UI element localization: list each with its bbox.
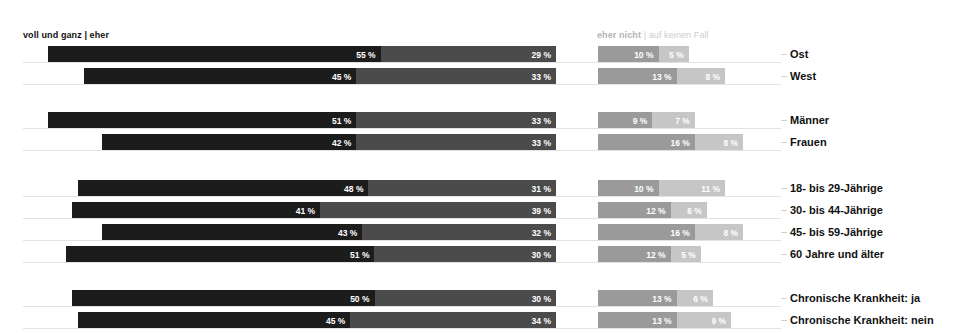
- segment-value: 10 %: [634, 184, 653, 193]
- category-label: Chronische Krankheit: ja: [790, 290, 920, 307]
- segment-eher: 30 %: [375, 290, 557, 307]
- segment-value: 9 %: [711, 316, 726, 325]
- segment-eher-nicht: 9 %: [598, 112, 652, 129]
- segment-auf-keinen-fall: 9 %: [677, 312, 731, 329]
- row-tick: [781, 298, 787, 299]
- segment-value: 12 %: [646, 250, 665, 259]
- segment-auf-keinen-fall: 6 %: [677, 290, 713, 307]
- segment-value: 30 %: [532, 294, 551, 303]
- segment-value: 9 %: [633, 116, 648, 125]
- segment-eher-nicht: 13 %: [598, 312, 677, 329]
- segment-value: 41 %: [296, 206, 315, 215]
- row-baseline: [23, 150, 781, 151]
- disagree-bar-group: 9 %7 %: [598, 112, 695, 129]
- segment-voll-und-ganz: 55 %: [48, 46, 381, 63]
- segment-eher: 33 %: [356, 134, 556, 151]
- segment-value: 6 %: [693, 294, 708, 303]
- segment-value: 5 %: [681, 250, 696, 259]
- segment-voll-und-ganz: 45 %: [84, 68, 356, 85]
- segment-eher-nicht: 10 %: [598, 46, 659, 63]
- agree-bar-group: 51 %33 %: [48, 112, 556, 129]
- segment-auf-keinen-fall: 6 %: [671, 202, 707, 219]
- segment-auf-keinen-fall: 11 %: [659, 180, 726, 197]
- agree-bar-group: 43 %32 %: [102, 224, 556, 241]
- category-label: West: [790, 68, 816, 85]
- segment-value: 5 %: [669, 50, 684, 59]
- row-tick: [781, 210, 787, 211]
- category-label: 45- bis 59-Jährige: [790, 224, 883, 241]
- segment-voll-und-ganz: 51 %: [48, 112, 357, 129]
- chart-row: 45 %33 %13 %8 %West: [0, 68, 971, 85]
- segment-value: 55 %: [356, 50, 375, 59]
- agree-bar-group: 55 %29 %: [48, 46, 556, 63]
- row-tick: [781, 188, 787, 189]
- segment-value: 31 %: [532, 184, 551, 193]
- segment-auf-keinen-fall: 7 %: [652, 112, 694, 129]
- chart-row: 48 %31 %10 %11 %18- bis 29-Jährige: [0, 180, 971, 197]
- row-baseline: [23, 328, 781, 329]
- stacked-bar-chart: voll und ganz | eher eher nicht | auf ke…: [0, 0, 971, 334]
- segment-value: 50 %: [350, 294, 369, 303]
- row-tick: [781, 320, 787, 321]
- segment-value: 8 %: [705, 72, 720, 81]
- row-baseline: [23, 84, 781, 85]
- segment-voll-und-ganz: 43 %: [102, 224, 362, 241]
- segment-eher-nicht: 12 %: [598, 202, 671, 219]
- segment-value: 51 %: [332, 116, 351, 125]
- segment-value: 32 %: [532, 228, 551, 237]
- chart-row: 51 %30 %12 %5 %60 Jahre und älter: [0, 246, 971, 263]
- segment-value: 29 %: [532, 50, 551, 59]
- agree-bar-group: 48 %31 %: [78, 180, 556, 197]
- row-baseline: [23, 128, 781, 129]
- category-label: Chronische Krankheit: nein: [790, 312, 934, 329]
- segment-value: 6 %: [687, 206, 702, 215]
- segment-auf-keinen-fall: 5 %: [659, 46, 689, 63]
- segment-value: 45 %: [332, 72, 351, 81]
- segment-eher-nicht: 13 %: [598, 68, 677, 85]
- category-label: 60 Jahre und älter: [790, 246, 884, 263]
- category-label: Frauen: [790, 134, 827, 151]
- chart-row: 43 %32 %16 %8 %45- bis 59-Jährige: [0, 224, 971, 241]
- segment-value: 30 %: [532, 250, 551, 259]
- chart-row: 41 %39 %12 %6 %30- bis 44-Jährige: [0, 202, 971, 219]
- segment-value: 42 %: [332, 138, 351, 147]
- segment-eher-nicht: 13 %: [598, 290, 677, 307]
- segment-value: 33 %: [532, 116, 551, 125]
- segment-eher-nicht: 16 %: [598, 224, 695, 241]
- disagree-bar-group: 12 %5 %: [598, 246, 701, 263]
- segment-auf-keinen-fall: 8 %: [695, 224, 743, 241]
- segment-voll-und-ganz: 51 %: [66, 246, 375, 263]
- legend-eher-nicht: eher nicht: [597, 30, 641, 40]
- category-label: Männer: [790, 112, 829, 129]
- segment-auf-keinen-fall: 5 %: [671, 246, 701, 263]
- row-baseline: [23, 196, 781, 197]
- segment-value: 13 %: [652, 72, 671, 81]
- row-baseline: [23, 262, 781, 263]
- chart-row: 45 %34 %13 %9 %Chronische Krankheit: nei…: [0, 312, 971, 329]
- category-label: Ost: [790, 46, 808, 63]
- segment-value: 8 %: [724, 228, 739, 237]
- chart-row: 55 %29 %10 %5 %Ost: [0, 46, 971, 63]
- segment-eher: 34 %: [350, 312, 556, 329]
- segment-eher: 30 %: [374, 246, 556, 263]
- category-label: 18- bis 29-Jährige: [790, 180, 883, 197]
- category-label: 30- bis 44-Jährige: [790, 202, 883, 219]
- segment-voll-und-ganz: 41 %: [72, 202, 320, 219]
- segment-value: 12 %: [646, 206, 665, 215]
- agree-bar-group: 42 %33 %: [102, 134, 556, 151]
- segment-auf-keinen-fall: 8 %: [677, 68, 725, 85]
- segment-eher-nicht: 12 %: [598, 246, 671, 263]
- row-tick: [781, 54, 787, 55]
- chart-row: 42 %33 %16 %8 %Frauen: [0, 134, 971, 151]
- segment-value: 8 %: [724, 138, 739, 147]
- disagree-bar-group: 16 %8 %: [598, 134, 743, 151]
- segment-value: 10 %: [634, 50, 653, 59]
- segment-value: 43 %: [338, 228, 357, 237]
- segment-value: 39 %: [532, 206, 551, 215]
- segment-value: 48 %: [344, 184, 363, 193]
- segment-value: 16 %: [670, 138, 689, 147]
- segment-voll-und-ganz: 45 %: [78, 312, 350, 329]
- disagree-bar-group: 13 %8 %: [598, 68, 725, 85]
- segment-eher: 32 %: [362, 224, 556, 241]
- disagree-bar-group: 12 %6 %: [598, 202, 707, 219]
